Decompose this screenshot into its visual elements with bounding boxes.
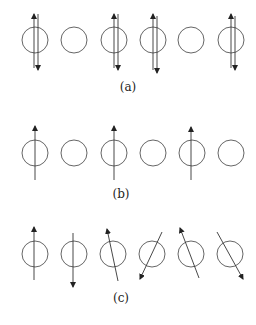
- panel-label-c: (c): [113, 291, 129, 305]
- empty-site-b-4: [140, 140, 166, 166]
- site-c-4: [139, 232, 165, 279]
- site-a-4: [140, 14, 166, 73]
- site-b-1: [22, 126, 48, 180]
- empty-site-b-6: [218, 140, 244, 166]
- empty-site-a-2: [61, 27, 87, 53]
- site-c-5: [178, 228, 204, 278]
- site-c-2: [61, 233, 87, 287]
- site-a-3: [101, 14, 127, 70]
- spin-tilted-arrow-icon: [107, 229, 118, 281]
- site-a-1: [22, 14, 48, 70]
- panel-b: (b): [22, 126, 244, 201]
- panel-label-b: (b): [112, 187, 129, 201]
- site-c-1: [22, 227, 48, 280]
- spin-tilted-arrow-icon: [180, 228, 199, 278]
- site-b-3: [101, 126, 127, 180]
- spin-tilted-arrow-icon: [140, 232, 162, 279]
- site-a-6: [218, 14, 244, 70]
- empty-site-b-2: [61, 140, 87, 166]
- site-b-5: [179, 127, 205, 180]
- spin-tilted-arrow-icon: [217, 232, 243, 279]
- panel-c: (c): [22, 227, 243, 305]
- spin-diagram: (a) (b): [0, 0, 256, 325]
- site-c-6: [217, 232, 243, 279]
- site-c-3: [100, 229, 126, 281]
- empty-site-a-5: [178, 27, 204, 53]
- panel-label-a: (a): [120, 80, 137, 94]
- panel-a: (a): [22, 14, 244, 94]
